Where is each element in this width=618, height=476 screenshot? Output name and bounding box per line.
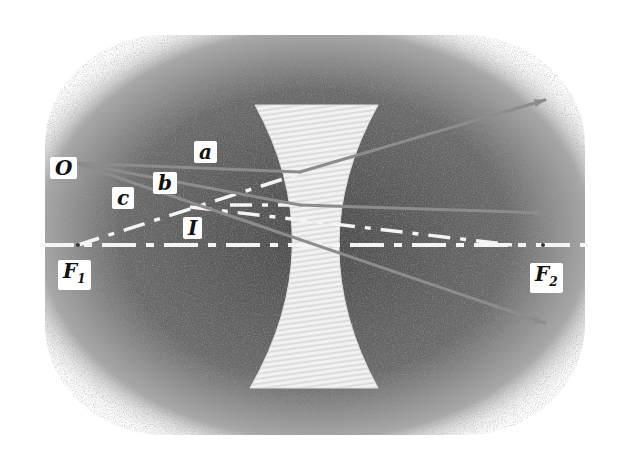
f2-subscript: 2 — [549, 275, 557, 289]
ray-b-label: b — [153, 172, 177, 194]
ray-c-label: c — [112, 187, 134, 209]
focal-point-f2-marker — [541, 243, 545, 247]
diverging-lens-diagram — [0, 0, 618, 476]
f2-letter: F — [535, 262, 549, 286]
f1-subscript: 1 — [77, 272, 85, 286]
focal-point-f1-label: F1 — [58, 260, 91, 290]
object-label: O — [50, 157, 77, 179]
image-label: I — [183, 217, 202, 239]
f1-letter: F — [63, 259, 77, 283]
focal-point-f1-marker — [76, 243, 80, 247]
ray-a-label: a — [194, 141, 217, 163]
focal-point-f2-label: F2 — [530, 263, 563, 293]
